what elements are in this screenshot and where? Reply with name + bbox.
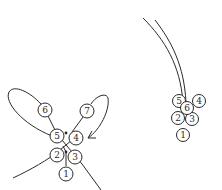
bead-4: 4: [69, 131, 83, 145]
bead-6: 6: [38, 103, 52, 117]
knot-dot: [65, 132, 68, 135]
bead-label: 1: [180, 130, 186, 140]
bead-5: 5: [50, 129, 64, 143]
bead-3: 3: [68, 150, 82, 164]
thread-lower-right: [62, 140, 101, 190]
bead-1: 1: [59, 167, 73, 181]
bead-label: 6: [184, 103, 190, 113]
bead-label: 6: [42, 105, 48, 115]
bead-6: 6: [181, 102, 194, 115]
bead-4: 4: [193, 95, 206, 108]
bead-2: 2: [172, 112, 185, 125]
bead-label: 1: [63, 169, 69, 179]
bead-label: 3: [72, 152, 78, 162]
bead-label: 2: [54, 150, 60, 160]
bead-label: 2: [175, 113, 181, 123]
bead-2: 2: [50, 148, 64, 162]
bead-label: 4: [196, 96, 202, 106]
beading-diagram: 6 7 5 4 2 3 1 5 4 2 3 6 1: [0, 0, 222, 190]
bead-7: 7: [80, 104, 94, 118]
right-bead-cluster: 5 4 2 3 6 1: [172, 95, 206, 142]
diagram-canvas: 6 7 5 4 2 3 1 5 4 2 3 6 1: [0, 0, 222, 190]
bead-label: 3: [189, 114, 195, 124]
bead-label: 4: [73, 133, 79, 143]
bead-label: 7: [84, 106, 90, 116]
bead-label: 5: [54, 131, 60, 141]
right-threads: [143, 18, 186, 102]
thread-4-to-7: [72, 117, 83, 132]
bead-1: 1: [177, 129, 190, 142]
